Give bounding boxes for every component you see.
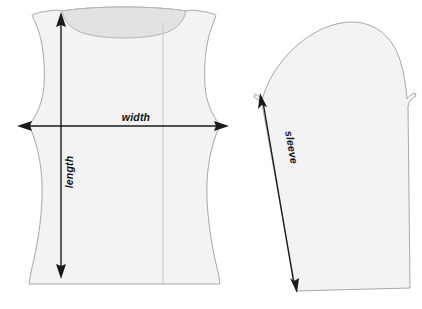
pattern-svg: width length sleeve bbox=[0, 0, 422, 309]
width-arrowhead-right bbox=[214, 121, 229, 131]
sleeve-outline bbox=[254, 22, 416, 291]
width-label: width bbox=[122, 111, 150, 123]
bodice-front-piece bbox=[29, 7, 220, 284]
sleeve-piece bbox=[254, 22, 416, 291]
width-arrowhead-left bbox=[17, 121, 32, 131]
pattern-diagram: width length sleeve bbox=[0, 0, 422, 309]
bodice-outline bbox=[29, 7, 220, 284]
length-label: length bbox=[63, 156, 75, 189]
